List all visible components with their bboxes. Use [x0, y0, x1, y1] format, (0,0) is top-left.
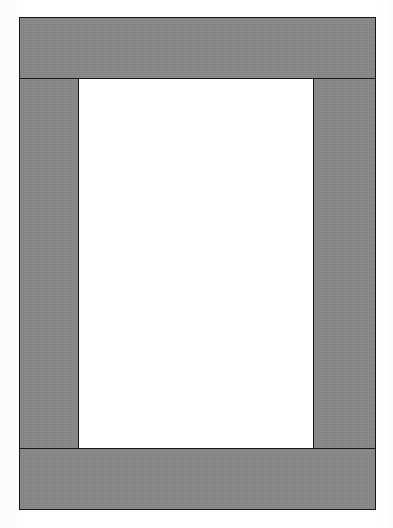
figure-title: Rectangular Frame Border Figure [0, 0, 1, 1]
frame-band-right [313, 78, 376, 449]
frame-band-top [19, 17, 376, 79]
frame-band-bottom [19, 448, 376, 510]
figure-canvas: Rectangular Frame Border Figure [0, 0, 393, 528]
frame-band-left [19, 78, 79, 449]
inner-blank-panel [79, 79, 313, 448]
